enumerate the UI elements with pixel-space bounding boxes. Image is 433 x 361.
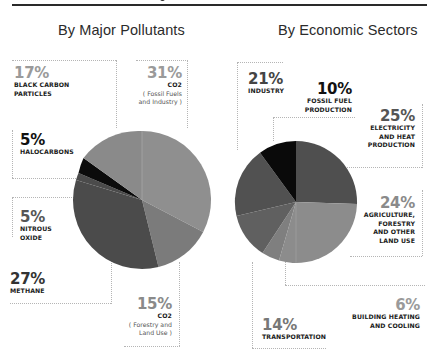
pct-black-carbon: 17% [14,65,69,81]
leader-black-carbon-right [116,60,117,128]
label-nitrous-oxide: 5% NITROUS OXIDE [20,209,52,242]
label-fossil-fuel: 10% FOSSIL FUEL PRODUCTION [300,81,352,114]
leader-building-top [285,285,425,286]
pct-co2-fossil: 31% [130,65,182,81]
pct-halocarbons: 5% [20,132,74,148]
pct-transportation: 14% [262,317,326,333]
label-methane: 27% METHANE [10,271,45,296]
leader-industry-top [237,62,283,63]
label-transportation: 14% TRANSPORTATION [262,317,326,342]
leader-transportation-left [252,262,253,348]
pct-building: 6% [340,297,420,313]
leader-co2-fossil-top [136,60,188,61]
leader-co2-fossil-right [187,60,188,128]
pollutants-pie-chart [72,130,212,270]
pct-nitrous-oxide: 5% [20,209,52,225]
slice-electricity [296,141,357,204]
label-agriculture: 24% AGRICULTURE, FORESTRY AND OTHER LAND… [360,195,415,245]
pct-fossil-fuel: 10% [300,81,352,97]
pct-co2-forestry: 15% [118,296,172,312]
left-chart-title: By Major Pollutants [58,22,185,38]
label-building: 6% BUILDING HEATING AND COOLING [340,297,420,330]
leader-methane-bottom [10,303,111,304]
leader-agriculture-right [422,190,423,256]
pct-electricity: 25% [360,108,415,124]
label-co2-fossil: 31% CO2 ( Fossil Fuels and Industry ) [130,65,182,107]
label-electricity: 25% ELECTRICITY AND HEAT PRODUCTION [360,108,415,150]
leader-co2-forestry-right [179,262,180,346]
leader-co2-forestry-bottom [124,346,180,347]
leader-agriculture-bottom [350,256,422,257]
pct-industry: 21% [248,71,284,87]
label-black-carbon: 17% BLACK CARBON PARTICLES [14,65,69,98]
label-industry: 21% INDUSTRY [248,71,284,96]
right-chart-title: By Economic Sectors [278,22,418,38]
leader-electricity-top [273,117,355,118]
leader-industry-left [237,62,238,150]
header-rule [12,4,427,6]
leader-transportation-bottom [252,348,326,349]
leader-electricity-right [422,104,423,168]
pct-methane: 27% [10,271,45,287]
leader-halocarbons-left [12,130,13,178]
clipped-title-glyph [160,0,165,1]
leader-nitrous-left [12,197,13,237]
label-co2-forestry: 15% CO2 ( Forestry and Land Use ) [118,296,172,338]
label-halocarbons: 5% HALOCARBONS [20,132,74,157]
pct-agriculture: 24% [360,195,415,211]
sectors-pie-chart [234,140,358,264]
leader-black-carbon-top [12,60,116,61]
leader-electricity-left [273,117,274,141]
